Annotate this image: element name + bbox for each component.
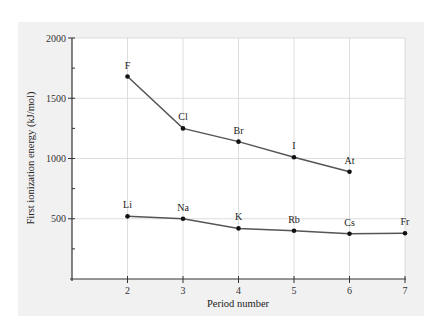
element-label: Cl [178,111,188,122]
data-point [236,226,241,231]
element-label: F [125,60,131,71]
data-point [347,232,352,237]
data-point [181,216,186,221]
element-label: Na [177,202,189,213]
element-label: K [235,211,243,222]
data-point [292,229,297,234]
data-point [347,169,352,174]
element-label: Fr [401,216,411,227]
data-point [403,231,408,236]
y-axis-title: First ionization energy (kJ/mol) [25,91,37,225]
y-tick-label: 1000 [46,153,66,164]
data-point [125,74,130,79]
data-point [292,155,297,160]
data-point [125,214,130,219]
x-tick-label: 2 [125,285,130,296]
x-tick-label: 4 [236,285,241,296]
x-tick-label: 3 [181,285,186,296]
x-tick-label: 5 [292,285,297,296]
ionization-energy-chart: 500100015002000234567 FClBrIAtLiNaKRbCsF… [0,0,438,334]
x-axis-title: Period number [207,298,270,309]
x-tick-label: 6 [347,285,352,296]
element-label: Li [123,199,132,210]
element-label: I [292,140,295,151]
data-point [181,126,186,131]
element-label: Cs [344,217,355,228]
element-label: At [345,155,355,166]
x-tick-label: 7 [403,285,408,296]
element-label: Rb [288,214,300,225]
data-point [236,139,241,144]
element-label: Br [234,125,245,136]
y-tick-label: 1500 [46,93,66,104]
y-tick-label: 500 [51,213,66,224]
y-tick-label: 2000 [46,33,66,44]
